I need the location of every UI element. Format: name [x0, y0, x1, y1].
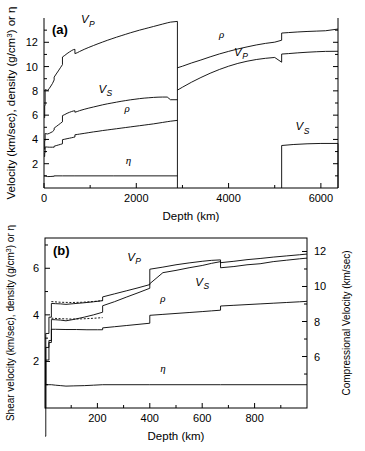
panel-b-left-ytick-label: 6	[33, 262, 39, 274]
panel-b-tag: (b)	[53, 243, 70, 258]
panel-b-axes: 246681012200400600800	[33, 238, 326, 424]
panel-a-ytick-label: 4	[32, 133, 38, 145]
panel-b-curve-rho	[45, 301, 307, 384]
panel-a-curve-labels: VPVSρηρVPVS	[81, 13, 310, 166]
panel-a-ytick-label: 8	[32, 85, 38, 97]
panel-b-left-yaxis-title: Shear velocity (km/sec), density (g/cm3)…	[5, 225, 16, 421]
panel-b-curve-eta	[45, 385, 307, 386]
panel-b-right-ytick-label: 10	[314, 280, 326, 292]
panel-b-svg: 246681012200400600800VPVSρη(b)Depth (km)…	[0, 225, 365, 451]
panel-a-curve-v-s	[282, 143, 338, 188]
panel-a-axis-lines	[44, 18, 338, 188]
vs-mantle-label: VS	[98, 83, 112, 98]
vp-label: VP	[127, 251, 141, 266]
vs-label: VS	[195, 276, 209, 291]
panel-b-xtick-label: 400	[141, 412, 159, 424]
panel-b-frame	[45, 238, 307, 408]
panel-a-curve-rho	[44, 120, 177, 156]
panel-b-upper-mantle: 246681012200400600800VPVSρη(b)Depth (km)…	[0, 225, 365, 451]
panel-a-curve-rho	[177, 29, 338, 68]
panel-b-left-ytick-label: 2	[33, 355, 39, 367]
panel-a-yaxis-title: Velocity (km/sec), density (g/cm3) or η	[5, 7, 18, 200]
panel-b-xtick-label: 800	[245, 412, 263, 424]
panel-a-whole-earth: 246810120200040006000VPVSρηρVPVS(a)Depth…	[0, 0, 365, 225]
rho-core-label: ρ	[218, 28, 224, 40]
vp-core-label: VP	[234, 46, 248, 61]
prem-figure: 246810120200040006000VPVSρηρVPVS(a)Depth…	[0, 0, 365, 451]
panel-a-curve-eta	[44, 176, 177, 177]
panel-b-right-ytick-label: 12	[314, 245, 326, 257]
panel-a-xtick-label: 2000	[124, 192, 148, 204]
panel-b-xaxis-title: Depth (km)	[148, 430, 205, 442]
panel-a-xaxis-title: Depth (km)	[163, 210, 220, 222]
panel-a-svg: 246810120200040006000VPVSρηρVPVS(a)Depth…	[0, 0, 365, 225]
panel-a-curve-v-p	[177, 51, 338, 90]
panel-b-right-yaxis-title: Compressional Velocity (km/sec)	[341, 250, 352, 395]
panel-a-ytick-label: 6	[32, 109, 38, 121]
panel-b-curve-v-p	[45, 258, 307, 436]
panel-a-ytick-label: 10	[26, 61, 38, 73]
eta-label: η	[160, 362, 165, 374]
vs-inner-core-label: VS	[295, 120, 309, 135]
panel-a-xtick-label: 6000	[309, 192, 333, 204]
rho-mantle-label: ρ	[123, 102, 129, 114]
panel-a-ytick-label: 2	[32, 158, 38, 170]
panel-b-right-ytick-label: 6	[314, 351, 320, 363]
panel-b-curves	[45, 254, 307, 436]
panel-b-right-ytick-label: 8	[314, 316, 320, 328]
panel-b-left-ytick-label: 4	[33, 309, 39, 321]
panel-a-tag: (a)	[52, 22, 68, 37]
rho-label: ρ	[159, 292, 165, 304]
eta-mantle-label: η	[126, 154, 131, 166]
panel-b-xtick-label: 200	[88, 412, 106, 424]
panel-a-curves	[44, 21, 338, 188]
panel-a-xtick-label: 4000	[216, 192, 240, 204]
vp-mantle-label: VP	[81, 13, 95, 28]
panel-b-xtick-label: 600	[193, 412, 211, 424]
panel-b-curve-v-s-isotropic	[51, 301, 102, 303]
panel-a-ytick-label: 12	[26, 36, 38, 48]
panel-a-xtick-label: 0	[41, 192, 47, 204]
